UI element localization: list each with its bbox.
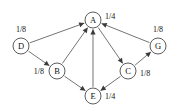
graph-node-e[interactable]: E (85, 88, 101, 104)
graph-canvas: ADGBCE 1/41/81/81/81/81/4 (0, 0, 179, 109)
node-value-label-e: 1/4 (105, 92, 115, 101)
graph-node-d[interactable]: D (13, 38, 29, 54)
node-value-label-g: 1/8 (153, 25, 163, 34)
node-value-label-d: 1/8 (16, 25, 26, 34)
edge-g-to-a (102, 23, 150, 43)
arrowhead-icon (90, 29, 95, 34)
node-value-label-b: 1/8 (34, 67, 44, 76)
graph-node-c[interactable]: C (120, 63, 136, 79)
graph-node-b[interactable]: B (49, 63, 65, 79)
arrowhead-icon (100, 86, 106, 91)
node-label-c: C (125, 66, 131, 76)
arrowhead-icon (80, 86, 86, 91)
edge-d-to-b (29, 51, 50, 66)
node-label-g: G (155, 41, 161, 51)
edge-d-to-a (30, 22, 85, 42)
node-label-e: E (90, 91, 95, 101)
arrowhead-icon (44, 61, 50, 66)
graph-node-g[interactable]: G (150, 38, 166, 54)
node-label-a: A (90, 15, 97, 25)
node-value-label-a: 1/4 (105, 12, 115, 21)
graph-node-a[interactable]: A (85, 12, 101, 28)
node-label-d: D (18, 41, 24, 51)
edge-e-to-a (90, 29, 95, 87)
arrowhead-icon (118, 58, 123, 64)
edge-b-to-e (65, 76, 86, 91)
edge-c-to-g (135, 52, 151, 65)
edges-layer (29, 22, 151, 90)
arrowhead-icon (83, 28, 88, 34)
node-value-label-c: 1/8 (140, 69, 150, 78)
edge-c-to-e (100, 76, 120, 90)
edge-a-to-c (98, 28, 123, 64)
directed-graph-figure: ADGBCE 1/41/81/81/81/81/4 (0, 0, 179, 109)
edge-b-to-a (62, 28, 87, 64)
node-label-b: B (54, 66, 60, 76)
